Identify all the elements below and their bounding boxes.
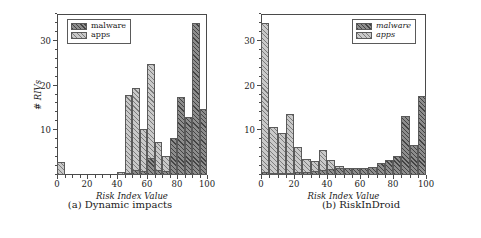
histogram-bar (170, 138, 178, 175)
y-axis-tick (55, 120, 58, 121)
x-axis-tick (95, 175, 96, 178)
histogram-bar (327, 169, 335, 175)
x-axis-tick (185, 175, 186, 178)
x-axis-tick (286, 175, 287, 178)
histogram-bar (117, 172, 125, 175)
histogram-bar (140, 171, 148, 175)
histogram-bar (368, 167, 376, 175)
x-axis-tick (192, 175, 193, 178)
x-axis-tick (401, 175, 402, 178)
histogram-bar (344, 168, 352, 175)
x-axis-tick (302, 175, 303, 178)
y-axis-tick (55, 31, 58, 32)
x-axis-tick (335, 175, 336, 178)
x-axis-tick (110, 175, 111, 178)
histogram-bar (147, 158, 155, 175)
y-axis-tick (259, 13, 262, 14)
legend-swatch-malware-icon (71, 23, 87, 30)
x-axis-tick (278, 175, 279, 178)
figure: 102030 020406080100 Risk Index Value # R… (0, 0, 481, 238)
y-axis-tick (55, 76, 58, 77)
x-axis-tick-label: 0 (54, 179, 59, 189)
x-axis-tick (418, 175, 419, 178)
y-axis-tick (55, 22, 58, 23)
histogram-bar (286, 173, 294, 175)
legend-label-malware: malware (376, 22, 411, 30)
histogram-bar (278, 133, 286, 175)
y-axis-tick (53, 129, 57, 130)
x-axis-tick (72, 175, 73, 178)
caption-a: (a) Dynamic impacts (0, 199, 240, 210)
y-axis-tick (55, 111, 58, 112)
plot-area-b: 102030 020406080100 Risk Index Value mal… (261, 14, 426, 175)
legend-swatch-apps-icon (71, 32, 87, 39)
x-axis-tick (102, 175, 103, 178)
x-axis-tick (65, 175, 66, 178)
histogram-bar (125, 173, 133, 175)
caption-b: (b) RiskInDroid (241, 199, 481, 210)
panel-riskindroid: 102030 020406080100 Risk Index Value mal… (241, 0, 481, 238)
legend-label-malware: malware (91, 22, 126, 30)
legend-item-malware-b: malware (356, 22, 411, 30)
x-axis-tick (368, 175, 369, 178)
histogram-bar (418, 96, 426, 175)
x-axis-tick-label: 20 (82, 179, 93, 189)
y-axis-tick-label: 20 (244, 81, 255, 91)
x-axis-tick (132, 175, 133, 178)
y-axis-tick (55, 67, 58, 68)
histogram-bar (177, 97, 185, 175)
histogram-bar (302, 172, 310, 175)
histogram-bar (269, 127, 277, 175)
histogram-bar (410, 145, 418, 175)
x-axis-tick-label: 0 (258, 179, 263, 189)
histogram-bar (377, 163, 385, 175)
y-axis-tick (53, 85, 57, 86)
legend-swatch-malware-icon (356, 23, 372, 30)
y-axis-tick (55, 102, 58, 103)
x-axis-tick-label: 60 (355, 179, 366, 189)
legend-label-apps: apps (91, 31, 110, 39)
histogram-bar (360, 168, 368, 175)
x-axis-tick-label: 100 (418, 179, 434, 189)
y-axis-tick (55, 49, 58, 50)
legend-item-apps-b: apps (356, 31, 411, 39)
histogram-bar (401, 116, 409, 175)
y-axis-title-a: # RIVs (33, 79, 43, 109)
histogram-bar (185, 117, 193, 175)
histogram-bar (155, 170, 163, 175)
histogram-bar (294, 147, 302, 175)
legend-b: malware apps (352, 19, 416, 44)
histogram-bar (57, 162, 65, 175)
x-axis-tick (162, 175, 163, 178)
histogram-bar (286, 114, 294, 175)
histogram-bar (352, 168, 360, 175)
x-axis-tick-label: 60 (142, 179, 153, 189)
x-axis-tick (377, 175, 378, 178)
x-axis-tick-label: 20 (289, 179, 300, 189)
y-axis-tick-label: 10 (40, 125, 51, 135)
y-axis-tick (55, 156, 58, 157)
y-axis-tick-label: 30 (40, 36, 51, 46)
x-axis-tick (80, 175, 81, 178)
histogram-bar (294, 172, 302, 175)
histogram-bar (132, 88, 140, 175)
x-axis-tick (155, 175, 156, 178)
y-axis-tick (55, 94, 58, 95)
x-axis-tick (344, 175, 345, 178)
histogram-bar (162, 171, 170, 175)
x-axis-tick-label: 80 (388, 179, 399, 189)
x-axis-tick-label: 40 (322, 179, 333, 189)
x-axis-tick (352, 175, 353, 178)
x-axis-tick (200, 175, 201, 178)
y-axis-tick (55, 147, 58, 148)
x-axis-tick (410, 175, 411, 178)
histogram-bar (261, 23, 269, 175)
histogram-bar (140, 129, 148, 176)
legend-a: malware apps (67, 19, 131, 44)
x-axis-tick (269, 175, 270, 178)
histogram-bar (132, 170, 140, 175)
histogram-bar (192, 23, 200, 175)
x-axis-tick (125, 175, 126, 178)
histogram-bar (319, 170, 327, 175)
legend-swatch-apps-icon (356, 32, 372, 39)
